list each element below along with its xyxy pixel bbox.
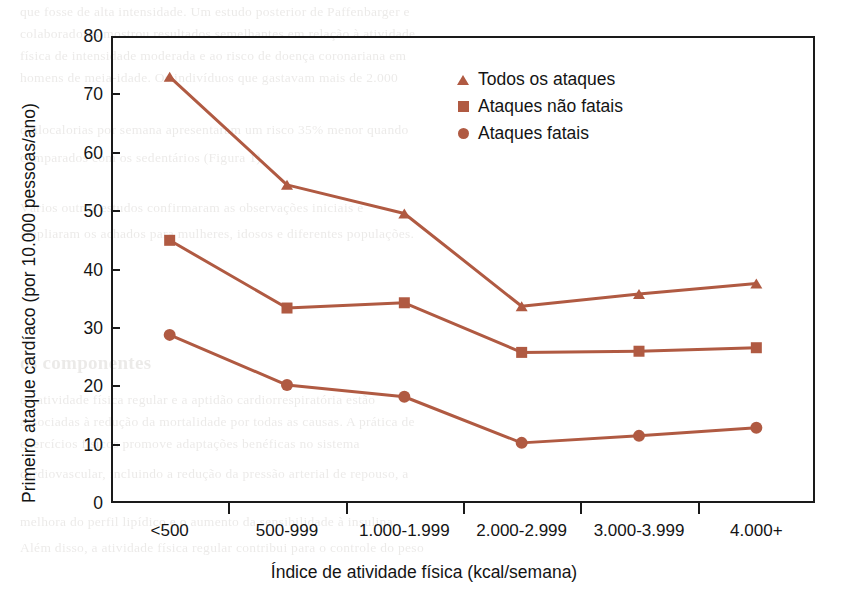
- square-marker-icon: [452, 101, 474, 112]
- data-point-marker[interactable]: [634, 346, 645, 357]
- y-axis-tick-mark: [111, 269, 120, 271]
- line-chart-figure: Primeiro ataque cardíaco (por 10.000 pes…: [0, 0, 848, 606]
- data-point-marker[interactable]: [633, 430, 645, 442]
- data-point-marker[interactable]: [399, 297, 410, 308]
- x-axis-tick-label: 3.000-3.999: [594, 521, 685, 541]
- data-point-marker[interactable]: [516, 347, 527, 358]
- triangle-marker-icon: [452, 75, 474, 85]
- x-axis-title: Índice de atividade física (kcal/semana): [0, 562, 848, 583]
- legend-item-ataques-fatais[interactable]: Ataques fatais: [452, 120, 702, 147]
- x-axis-tick-mark: [463, 503, 465, 514]
- data-point-marker[interactable]: [516, 437, 528, 449]
- data-point-marker[interactable]: [281, 379, 293, 391]
- series-square: [164, 235, 762, 358]
- series-svg: [0, 0, 848, 606]
- x-axis-tick-label: 2.000-2.999: [476, 521, 567, 541]
- x-axis-tick-mark: [346, 503, 348, 514]
- y-axis-tick-mark: [111, 327, 120, 329]
- y-axis-tick-mark: [111, 93, 120, 95]
- x-axis-tick-label: 4.000+: [730, 521, 782, 541]
- data-point-marker[interactable]: [164, 235, 175, 246]
- circle-marker-icon: [452, 128, 474, 139]
- data-point-marker[interactable]: [751, 342, 762, 353]
- series-line: [170, 240, 757, 352]
- data-point-marker[interactable]: [164, 329, 176, 341]
- x-axis-tick-label: 1.000-1.999: [359, 521, 450, 541]
- data-point-marker[interactable]: [282, 303, 293, 314]
- x-axis-tick-label: 500-999: [256, 521, 318, 541]
- x-axis-tick-mark: [698, 503, 700, 514]
- x-axis-tick-label: <500: [151, 521, 189, 541]
- y-axis-tick-mark: [111, 385, 120, 387]
- legend-item-label: Ataques não fatais: [474, 96, 623, 117]
- data-point-marker[interactable]: [398, 391, 410, 403]
- plot-data-layer: [0, 0, 848, 606]
- chart-legend: Todos os ataques Ataques não fatais Ataq…: [452, 66, 702, 147]
- legend-item-label: Todos os ataques: [474, 69, 615, 90]
- series-circle: [164, 329, 763, 449]
- legend-item-label: Ataques fatais: [474, 123, 589, 144]
- y-axis-tick-mark: [111, 444, 120, 446]
- data-point-marker[interactable]: [164, 72, 176, 82]
- legend-item-todos-os-ataques[interactable]: Todos os ataques: [452, 66, 702, 93]
- x-axis-tick-mark: [580, 503, 582, 514]
- data-point-marker[interactable]: [750, 422, 762, 434]
- y-axis-tick-mark: [111, 152, 120, 154]
- y-axis-tick-mark: [111, 210, 120, 212]
- x-axis-tick-mark: [228, 503, 230, 514]
- legend-item-ataques-nao-fatais[interactable]: Ataques não fatais: [452, 93, 702, 120]
